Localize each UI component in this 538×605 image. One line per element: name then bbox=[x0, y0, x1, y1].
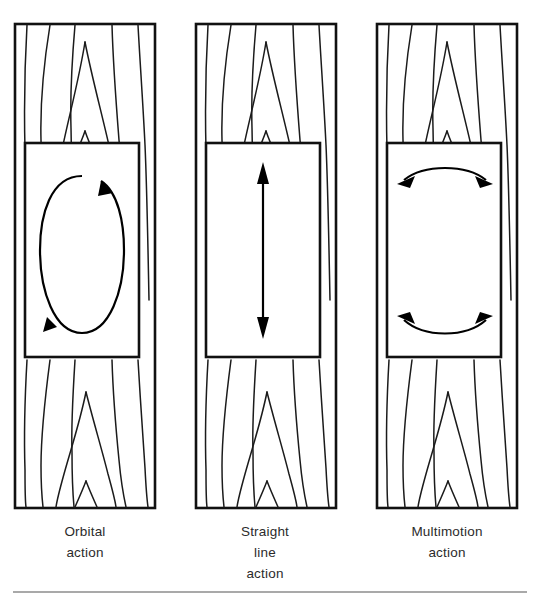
caption-straight-line: Straight line action bbox=[188, 521, 342, 584]
panel-orbital bbox=[15, 24, 155, 508]
wood-grain-group-lower bbox=[206, 360, 329, 507]
panel-straight-line bbox=[196, 24, 336, 508]
sanding-pad-outline bbox=[387, 143, 501, 357]
panel-multimotion bbox=[377, 24, 517, 508]
caption-orbital: Orbital action bbox=[8, 521, 162, 563]
wood-grain-group-lower bbox=[387, 360, 510, 507]
wood-grain-group-lower bbox=[25, 360, 148, 507]
sanding-actions-figure: Orbital action Straight line action Mult… bbox=[0, 0, 538, 605]
diagram-canvas bbox=[0, 0, 538, 605]
caption-multimotion: Multimotion action bbox=[368, 521, 526, 563]
